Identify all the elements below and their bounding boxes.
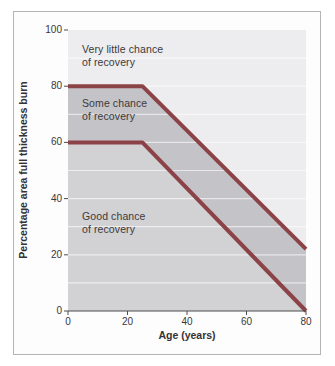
zone-label-line: of recovery: [82, 223, 146, 236]
y-tick-label: 0: [22, 305, 62, 316]
y-tick-label: 40: [22, 193, 62, 204]
y-tick-label: 20: [22, 249, 62, 260]
burn-recovery-chart: Very little chance of recovery Some chan…: [0, 0, 335, 366]
x-tick-label: 0: [65, 316, 71, 327]
x-tick-label: 20: [122, 316, 133, 327]
y-axis-title: Percentage area full thickness burn: [17, 81, 29, 258]
zone-label-line: Some chance: [82, 97, 147, 110]
y-tick-label: 80: [22, 80, 62, 91]
y-tick-label: 60: [22, 136, 62, 147]
zone-label-line: Very little chance: [82, 43, 163, 56]
zone-label-line: of recovery: [82, 56, 163, 69]
x-tick-label: 40: [181, 316, 192, 327]
x-axis-title: Age (years): [68, 329, 306, 341]
zone-label-line: Good chance: [82, 210, 146, 223]
x-tick-label: 60: [241, 316, 252, 327]
x-tick-label: 80: [300, 316, 311, 327]
zone-label-very-little-chance: Very little chance of recovery: [82, 43, 163, 69]
zone-label-line: of recovery: [82, 110, 147, 123]
zone-label-good-chance: Good chance of recovery: [82, 210, 146, 236]
zone-label-some-chance: Some chance of recovery: [82, 97, 147, 123]
y-tick-label: 100: [22, 24, 62, 35]
